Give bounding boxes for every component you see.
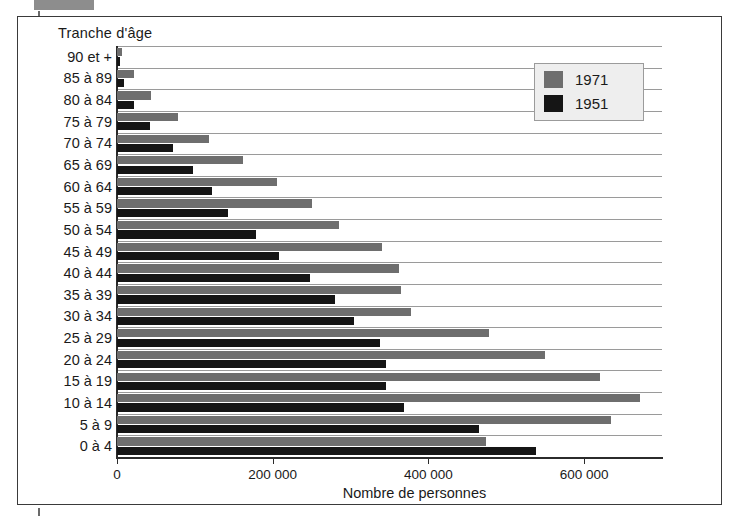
bar-1971-35-à-39 [117,286,401,294]
bar-1971-75-à-79 [117,113,178,121]
x-tick-label: 400 000 [404,467,453,482]
bar-1971-80-à-84 [117,91,151,99]
bar-1971-55-à-59 [117,199,312,207]
bar-1971-85-à-89 [117,70,134,78]
legend-item-1971: 1971 [544,71,608,88]
bar-1971-15-à-19 [117,373,600,381]
x-axis-title-text: Nombre de personnes [253,485,486,501]
y-tick-label: 45 à 49 [64,244,112,260]
bar-1971-50-à-54 [117,221,339,229]
bar-1951-90-et-+ [117,57,120,65]
bar-1951-40-à-44 [117,274,310,282]
y-tick-label: 60 à 64 [64,179,112,195]
bar-1971-45-à-49 [117,243,382,251]
bar-1971-70-à-74 [117,135,209,143]
x-tick [428,458,429,464]
bar-1971-0-à-4 [117,437,486,445]
x-tick [273,458,274,464]
bar-1951-15-à-19 [117,382,386,390]
bar-1951-0-à-4 [117,447,536,455]
legend-swatch-1971 [544,71,563,88]
bar-1951-20-à-24 [117,360,386,368]
legend-swatch-1951 [544,95,563,112]
bar-1971-20-à-24 [117,351,545,359]
legend-item-1951: 1951 [544,95,608,112]
y-tick-label: 85 à 89 [64,70,112,86]
bar-1971-5-à-9 [117,416,611,424]
bar-1971-90-et-+ [117,48,122,56]
y-tick-label: 70 à 74 [64,135,112,151]
y-tick-label: 10 à 14 [64,395,112,411]
bar-1971-30-à-34 [117,308,411,316]
legend: 1971 1951 [534,63,644,121]
bar-1951-35-à-39 [117,295,335,303]
legend-label-1951: 1951 [575,95,608,112]
bar-1951-45-à-49 [117,252,279,260]
x-tick-label: 0 [113,467,121,482]
crop-tick-bottom [38,508,40,516]
bar-1951-5-à-9 [117,425,479,433]
y-tick-label: 90 et + [67,49,112,65]
bar-1951-55-à-59 [117,209,228,217]
y-tick-label: 35 à 39 [64,287,112,303]
bar-1971-60-à-64 [117,178,277,186]
bar-1951-30-à-34 [117,317,354,325]
x-tick-label: 200 000 [248,467,297,482]
x-tick [117,458,118,464]
legend-label-1971: 1971 [575,71,608,88]
bar-1951-60-à-64 [117,187,212,195]
bar-1951-50-à-54 [117,230,256,238]
bar-1951-85-à-89 [117,79,124,87]
y-tick-label: 20 à 24 [64,352,112,368]
bar-1951-80-à-84 [117,101,134,109]
bar-1971-25-à-29 [117,329,489,337]
bar-1951-65-à-69 [117,166,193,174]
y-tick-label: 80 à 84 [64,92,112,108]
y-tick-label: 15 à 19 [64,373,112,389]
y-axis-tick-labels: 90 et +85 à 8980 à 8475 à 7970 à 7465 à … [18,17,112,506]
x-tick-label: 600 000 [560,467,609,482]
x-axis-title: Nombre de personnes [18,485,721,501]
bar-1951-70-à-74 [117,144,173,152]
x-tick [584,458,585,464]
y-tick-label: 65 à 69 [64,157,112,173]
bar-1971-10-à-14 [117,394,640,402]
y-tick-label: 25 à 29 [64,330,112,346]
y-tick-label: 50 à 54 [64,222,112,238]
y-tick-label: 0 à 4 [80,438,112,454]
bar-1971-65-à-69 [117,156,243,164]
y-tick-label: 55 à 59 [64,200,112,216]
x-axis-line [116,457,663,459]
y-tick-label: 75 à 79 [64,114,112,130]
bar-1951-10-à-14 [117,403,404,411]
bar-1951-25-à-29 [117,339,380,347]
bar-1951-75-à-79 [117,122,150,130]
bar-1971-40-à-44 [117,264,399,272]
chart-frame: Tranche d'âge 90 et +85 à 8980 à 8475 à … [17,16,722,505]
redacted-label-bar [34,0,94,10]
y-tick-label: 40 à 44 [64,265,112,281]
y-tick-label: 30 à 34 [64,308,112,324]
y-tick-label: 5 à 9 [80,417,112,433]
